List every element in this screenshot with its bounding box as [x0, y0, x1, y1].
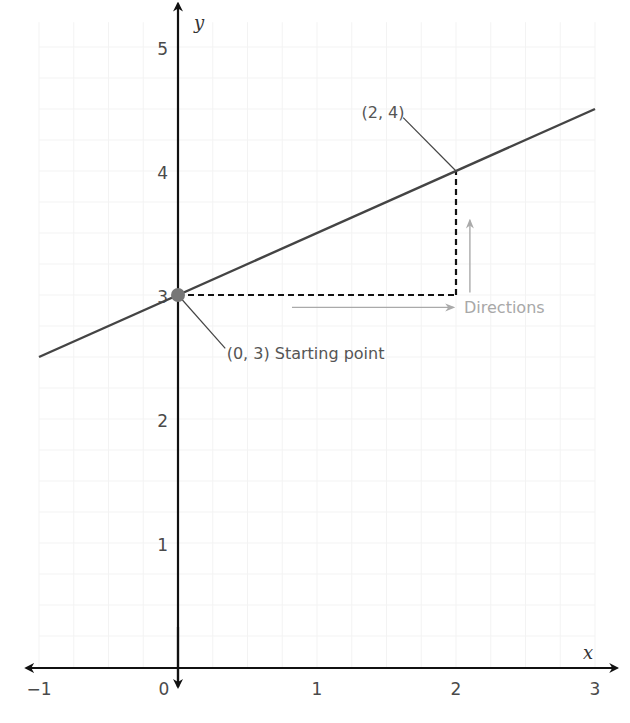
x-tick-label: −1 — [26, 679, 51, 699]
starting-point-label: (0, 3) Starting point — [227, 344, 385, 363]
x-tick-label: 1 — [312, 679, 323, 699]
starting-point-dot — [171, 288, 185, 302]
x-tick-label: 0 — [159, 679, 170, 699]
labels: x y (0, 3) Starting point (2, 4) Directi… — [193, 12, 593, 663]
y-axis-label: y — [193, 12, 205, 33]
x-tick-label: 3 — [590, 679, 601, 699]
x-axis-label: x — [583, 642, 593, 663]
y-tick-label: 4 — [157, 163, 168, 183]
y-tick-label: 1 — [157, 535, 168, 555]
directions-label: Directions — [464, 298, 545, 317]
second-point-label: (2, 4) — [361, 103, 404, 122]
y-tick-label: 5 — [157, 39, 168, 59]
second-point-leader — [403, 118, 456, 171]
x-tick-label: 2 — [451, 679, 462, 699]
y-tick-label: 2 — [157, 411, 168, 431]
chart: −1012312345 x y (0, 3) Starting point (2… — [0, 0, 630, 723]
starting-point-leader — [178, 295, 225, 348]
